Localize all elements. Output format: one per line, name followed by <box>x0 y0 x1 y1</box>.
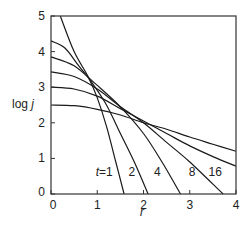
x-tick-label: 1 <box>94 198 101 212</box>
y-tick-label: 3 <box>38 80 45 94</box>
curve-unlabeled <box>51 105 236 151</box>
x-tick-label: 4 <box>233 198 240 212</box>
y-tick-label: 4 <box>38 45 45 59</box>
curve-label: 16 <box>209 165 223 179</box>
y-tick-label: 2 <box>38 116 45 130</box>
curve-label: t=1 <box>96 165 113 179</box>
curve-t-4 <box>51 57 181 194</box>
y-tick-label: 5 <box>38 9 45 23</box>
y-axis-label: log j <box>12 97 34 111</box>
y-axis-label-prefix: log <box>12 97 31 111</box>
y-tick-label: 1 <box>38 151 45 165</box>
curve-label: 4 <box>154 165 161 179</box>
x-tick-label: 0 <box>50 198 57 212</box>
curve-label: 2 <box>129 165 136 179</box>
curve-labels: t=124816 <box>96 165 223 179</box>
curve-t-8 <box>51 72 223 194</box>
curve-label: 8 <box>189 165 196 179</box>
chart: 01234012345 t=124816 r log j <box>0 0 250 232</box>
x-tick-label: 3 <box>186 198 193 212</box>
y-tick-label: 0 <box>38 185 45 199</box>
curve-t-16 <box>51 87 236 166</box>
